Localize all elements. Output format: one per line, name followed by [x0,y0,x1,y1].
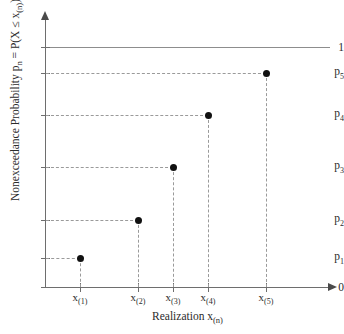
data-point-1 [77,255,84,262]
x-axis-line [45,287,330,288]
y-axis-title-wrapper: Nonexceedance Probability pn = P(X ≤ x(n… [9,0,25,225]
guide-horizontal-p5 [46,73,266,74]
x-tick-label-3: x(3) [153,291,193,306]
y-axis-title: Nonexceedance Probability pn = P(X ≤ x(n… [9,0,24,225]
x-tick-label-4: x(4) [188,291,228,306]
guide-horizontal-p2 [46,220,138,221]
x-tick-label-2: x(2) [118,291,158,306]
data-point-2 [135,217,142,224]
guide-vertical-x3 [173,167,174,287]
x-tick-label-5: x(5) [246,291,286,306]
y-tick-label-p1: p1 [318,250,344,265]
guide-vertical-x4 [208,115,209,287]
y-tick-label-p3: p3 [318,159,344,174]
y-tick-1 [41,47,50,48]
nonexceedance-probability-chart: 0 p1 p2 p3 p4 p5 1 x(1) x(2) x(3) x(4) x… [0,0,344,334]
x-tick-label-1: x(1) [60,291,100,306]
x-axis-title: Realization x(n) [45,310,330,325]
data-point-5 [263,70,270,77]
data-point-4 [205,112,212,119]
y-tick-label-p2: p2 [318,212,344,227]
y-axis-arrow-icon [41,11,49,20]
unit-probability-reference-line [45,47,330,48]
guide-horizontal-p4 [46,115,208,116]
guide-horizontal-p3 [46,167,173,168]
y-tick-label-0: 0 [318,281,344,293]
guide-horizontal-p1 [46,258,80,259]
y-tick-label-p4: p4 [318,107,344,122]
guide-vertical-x5 [266,73,267,287]
y-tick-label-p5: p5 [318,65,344,80]
y-tick-label-1: 1 [318,41,344,53]
guide-vertical-x1 [80,258,81,287]
data-point-3 [170,164,177,171]
y-tick-0 [41,287,50,288]
y-axis-line [45,18,46,288]
guide-vertical-x2 [138,220,139,287]
